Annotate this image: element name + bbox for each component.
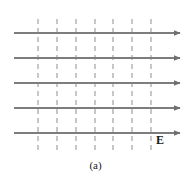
equipotential-line-group [38, 19, 151, 150]
field-line-group [14, 33, 180, 133]
figure-caption: (a) [0, 160, 191, 171]
field-strength-label: E [156, 134, 164, 146]
figure-panel-a: E (a) [0, 0, 191, 180]
electric-field-graphic [0, 0, 191, 180]
